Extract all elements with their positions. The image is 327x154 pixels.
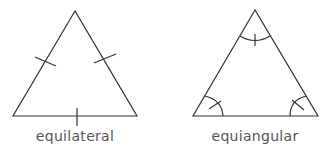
side-tick-left	[35, 57, 56, 66]
equiangular-triangle	[193, 10, 318, 116]
angle-arc-right	[290, 96, 306, 116]
equiangular-label: equiangular	[190, 128, 320, 144]
equilateral-label: equilateral	[10, 128, 140, 144]
equilateral-triangle	[13, 11, 137, 126]
